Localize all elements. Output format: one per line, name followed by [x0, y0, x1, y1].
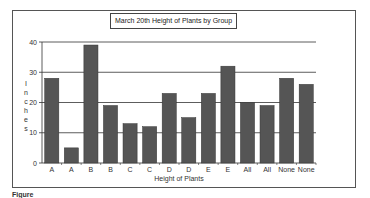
bar [103, 106, 117, 163]
x-axis-label: Height of Plants [154, 175, 204, 183]
bar [280, 78, 294, 163]
bar [221, 66, 235, 163]
x-tick-label: All [244, 166, 252, 173]
bar [162, 93, 176, 163]
x-tick-label: C [147, 166, 152, 173]
x-tick-label: A [69, 166, 74, 173]
y-tick-label: 40 [29, 39, 37, 46]
bar [143, 127, 157, 163]
figure-caption: Figure [12, 191, 33, 198]
x-tick-label: E [226, 166, 231, 173]
x-tick-label: A [49, 166, 54, 173]
y-axis-label-letter: c [24, 98, 28, 105]
x-tick-label: C [128, 166, 133, 173]
y-axis-label-letter: I [25, 80, 27, 87]
x-tick-label: E [206, 166, 211, 173]
bar [84, 45, 98, 163]
y-tick-label: 30 [29, 69, 37, 76]
y-tick-label: 20 [29, 99, 37, 106]
bar-chart: 010203040AABBCCDDEEAllAllNoneNoneHeight … [0, 0, 370, 198]
y-tick-label: 10 [29, 129, 37, 136]
x-tick-label: B [108, 166, 113, 173]
bar [123, 124, 137, 163]
bar [299, 84, 313, 163]
bar [240, 103, 254, 164]
x-tick-label: D [186, 166, 191, 173]
x-tick-label: D [167, 166, 172, 173]
x-tick-label: B [89, 166, 94, 173]
bar [201, 93, 215, 163]
y-axis-label-letter: e [24, 116, 28, 123]
y-axis-label-letter: h [24, 107, 28, 114]
bar [182, 118, 196, 163]
x-tick-label: All [263, 166, 271, 173]
x-tick-label: None [298, 166, 315, 173]
y-axis-label-letter: s [24, 125, 28, 132]
bar [45, 78, 59, 163]
y-tick-label: 0 [33, 160, 37, 167]
bar [64, 148, 78, 163]
bar [260, 106, 274, 163]
x-tick-label: None [278, 166, 295, 173]
y-axis-label-letter: n [24, 89, 28, 96]
